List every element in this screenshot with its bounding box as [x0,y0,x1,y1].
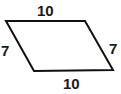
parallelogram-shape [0,0,121,94]
side-label-right: 7 [109,41,117,56]
side-label-top: 10 [37,3,53,18]
parallelogram-outline [6,21,113,71]
side-label-left: 7 [1,43,9,58]
side-label-bottom: 10 [63,76,79,91]
parallelogram-figure: 10 7 7 10 [0,0,121,94]
